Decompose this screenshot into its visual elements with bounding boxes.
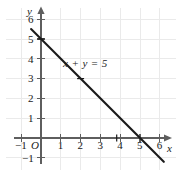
x-axis-label: x bbox=[167, 143, 172, 154]
origin-label: O bbox=[31, 140, 39, 151]
y-tick-label-2: 2 bbox=[28, 93, 34, 104]
y-tick-label-minus-1: −1 bbox=[22, 153, 34, 164]
equation-annotation: x + y = 5 bbox=[63, 58, 108, 69]
x-tick-label-5: 5 bbox=[137, 140, 143, 151]
x-tick-label-2: 2 bbox=[78, 140, 84, 151]
y-tick-label-4: 4 bbox=[28, 54, 34, 65]
x-tick-label-1: 1 bbox=[58, 140, 64, 151]
y-tick-label-6: 6 bbox=[28, 14, 34, 25]
x-tick-label-6: 6 bbox=[157, 140, 163, 151]
x-tick-label-minus-1: −1 bbox=[15, 140, 27, 151]
line-point-markers bbox=[38, 39, 117, 142]
y-tick-label-5: 5 bbox=[28, 34, 34, 45]
y-tick-label-3: 3 bbox=[28, 73, 34, 84]
x-tick-label-3: 3 bbox=[97, 140, 103, 151]
graph-figure: y x 6 5 4 3 2 1 −1 O −1 1 2 3 4 5 6 x + … bbox=[0, 0, 180, 177]
coordinate-plane bbox=[0, 0, 180, 177]
y-tick-label-1: 1 bbox=[28, 113, 34, 124]
x-tick-label-4: 4 bbox=[117, 140, 123, 151]
